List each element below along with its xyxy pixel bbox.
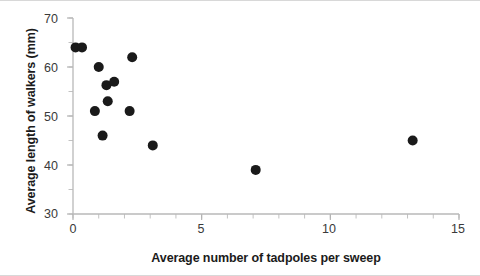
data-point <box>408 136 418 146</box>
data-point <box>90 106 100 116</box>
data-point <box>94 62 104 72</box>
data-point <box>127 52 137 62</box>
data-point <box>251 165 261 175</box>
data-point-group <box>71 42 418 175</box>
data-point <box>98 131 108 141</box>
data-point <box>77 42 87 52</box>
data-point <box>125 106 135 116</box>
scatter-chart-figure: Average length of walkers (mm) Average n… <box>0 0 480 276</box>
x-axis-minor-ticks <box>73 214 459 219</box>
plot-area <box>0 1 480 276</box>
x-axis-major-ticks <box>73 214 459 220</box>
data-point <box>103 96 113 106</box>
data-point <box>109 77 119 87</box>
data-point <box>148 140 158 150</box>
